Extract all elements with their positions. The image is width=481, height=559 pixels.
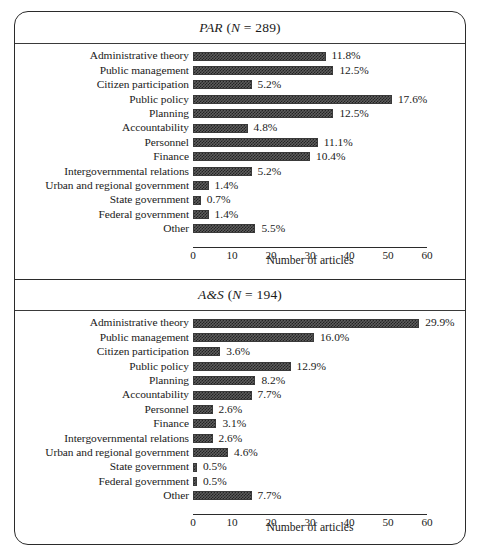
bar-zone: 3.6% (193, 345, 465, 359)
category-label: Public management (15, 332, 193, 343)
category-label: Planning (15, 108, 193, 119)
bar-row: State government0.7% (15, 193, 465, 207)
bar-zone: 0.7% (193, 193, 465, 207)
bar-row: Federal government1.4% (15, 207, 465, 221)
bar-zone: 1.4% (193, 179, 465, 193)
bar-value-label: 17.6% (392, 94, 427, 105)
bar (193, 109, 333, 118)
panel-title-n-aas: (N = 194) (228, 287, 282, 302)
bar-row: Other5.5% (15, 222, 465, 236)
bar (193, 491, 252, 500)
bar-row: Public policy17.6% (15, 92, 465, 106)
category-label: Public policy (15, 94, 193, 105)
category-label: Urban and regional government (15, 447, 193, 458)
bar-row: Federal government0.5% (15, 474, 465, 488)
bar-row: Citizen participation5.2% (15, 78, 465, 92)
bar (193, 391, 252, 400)
x-axis-title-par: Number of articles (193, 255, 427, 267)
plot-area-par: Administrative theory11.8%Public managem… (15, 45, 465, 279)
bar-value-label: 5.2% (252, 166, 282, 177)
x-axis-title-aas: Number of articles (193, 522, 427, 534)
category-label: Accountability (15, 122, 193, 133)
bar (193, 181, 209, 190)
bar (193, 434, 213, 443)
category-label: Planning (15, 375, 193, 386)
bar-row: Intergovernmental relations5.2% (15, 164, 465, 178)
bar-value-label: 12.5% (333, 65, 368, 76)
category-label: Public management (15, 65, 193, 76)
category-label: State government (15, 461, 193, 472)
bar-zone: 7.7% (193, 388, 465, 402)
bar-row: Public policy12.9% (15, 359, 465, 373)
bar-zone: 29.9% (193, 316, 465, 330)
category-label: Intergovernmental relations (15, 433, 193, 444)
bar-row: Urban and regional government1.4% (15, 179, 465, 193)
category-label: Finance (15, 418, 193, 429)
category-label: Finance (15, 151, 193, 162)
bar-row: State government0.5% (15, 460, 465, 474)
bar-value-label: 0.5% (197, 476, 227, 487)
bar-zone: 7.7% (193, 489, 465, 503)
bar-row: Planning12.5% (15, 107, 465, 121)
bar-value-label: 1.4% (209, 209, 239, 220)
bar (193, 333, 314, 342)
bar-zone: 4.6% (193, 446, 465, 460)
category-label: Personnel (15, 137, 193, 148)
bar-zone: 0.5% (193, 474, 465, 488)
bar-value-label: 2.6% (213, 404, 243, 415)
chart-panel-aas: A&S (N = 194) Administrative theory29.9%… (15, 279, 465, 546)
bar-zone: 11.1% (193, 135, 465, 149)
bar-value-label: 4.6% (228, 447, 258, 458)
bar (193, 52, 326, 61)
panel-title-n-par: (N = 289) (226, 20, 280, 35)
panel-title-rule-aas (15, 310, 465, 311)
bar-value-label: 11.1% (318, 137, 353, 148)
bar-value-label: 10.4% (310, 151, 345, 162)
bar-zone: 2.6% (193, 431, 465, 445)
bar (193, 196, 201, 205)
bar (193, 210, 209, 219)
x-axis-line-par (193, 247, 427, 248)
bar-zone: 12.5% (193, 63, 465, 77)
bar-value-label: 1.4% (209, 180, 239, 191)
panel-title-main-aas: A&S (198, 287, 224, 302)
bar-value-label: 16.0% (314, 332, 349, 343)
bar-zone: 5.2% (193, 78, 465, 92)
figure-frame: PAR (N = 289) Administrative theory11.8%… (14, 11, 466, 545)
category-label: Other (15, 223, 193, 234)
category-label: Other (15, 490, 193, 501)
bar (193, 167, 252, 176)
bar-value-label: 12.9% (291, 361, 326, 372)
bar-zone: 2.6% (193, 402, 465, 416)
bar-value-label: 0.5% (197, 461, 227, 472)
bar-value-label: 8.2% (255, 375, 285, 386)
bar-row: Finance3.1% (15, 417, 465, 431)
category-label: Intergovernmental relations (15, 166, 193, 177)
panel-title-par: PAR (N = 289) (15, 20, 465, 36)
bar (193, 448, 228, 457)
bar (193, 319, 419, 328)
bar-value-label: 0.7% (201, 194, 231, 205)
bar-row: Accountability4.8% (15, 121, 465, 135)
panel-title-main-par: PAR (199, 20, 223, 35)
bar-row: Public management16.0% (15, 330, 465, 344)
bar-rows-par: Administrative theory11.8%Public managem… (15, 49, 465, 236)
bar-zone: 11.8% (193, 49, 465, 63)
bar (193, 66, 333, 75)
bar-row: Planning8.2% (15, 374, 465, 388)
category-label: Public policy (15, 361, 193, 372)
bar-value-label: 3.6% (220, 346, 250, 357)
bar-value-label: 3.1% (216, 418, 246, 429)
bar-value-label: 4.8% (248, 122, 278, 133)
category-label: Citizen participation (15, 79, 193, 90)
bar-zone: 0.5% (193, 460, 465, 474)
bar-value-label: 5.2% (252, 79, 282, 90)
bar-row: Administrative theory29.9% (15, 316, 465, 330)
bar (193, 138, 318, 147)
bar-zone: 12.9% (193, 359, 465, 373)
category-label: Accountability (15, 389, 193, 400)
bar (193, 347, 220, 356)
bar-value-label: 5.5% (255, 223, 285, 234)
bar-zone: 5.2% (193, 164, 465, 178)
category-label: Administrative theory (15, 50, 193, 61)
